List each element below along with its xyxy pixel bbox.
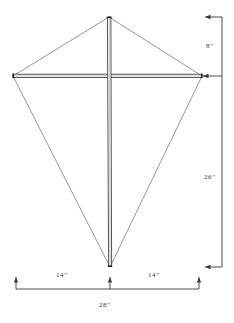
sail-edge-upper-left bbox=[13, 17, 109, 76]
vertical-spar bbox=[107, 17, 112, 266]
vertical-dimension-arrow-middle bbox=[203, 74, 209, 78]
vertical-dimension-group bbox=[203, 15, 222, 269]
horizontal-dimension-arrow-center bbox=[108, 277, 112, 283]
vertical-dimension-arrow-top bbox=[205, 15, 211, 19]
sail-edge-lower-left bbox=[13, 76, 110, 267]
vertical-dimension-arrow-bottom bbox=[205, 265, 211, 269]
sail-edge-lower-right bbox=[110, 76, 202, 267]
horizontal-dimension-group bbox=[14, 277, 201, 289]
dimension-label-top-height: 8" bbox=[206, 43, 214, 50]
kite-diagram bbox=[0, 0, 234, 323]
sail-edge-upper-right bbox=[109, 17, 202, 76]
horizontal-dimension-arrow-left bbox=[14, 277, 18, 283]
horizontal-dimension-arrow-right bbox=[197, 277, 201, 283]
dimension-label-total-width: 28" bbox=[99, 302, 111, 309]
dimension-label-right-half-width: 14" bbox=[148, 272, 160, 279]
dimension-label-left-half-width: 14" bbox=[56, 272, 68, 279]
dimension-label-bottom-height: 26" bbox=[204, 174, 216, 181]
